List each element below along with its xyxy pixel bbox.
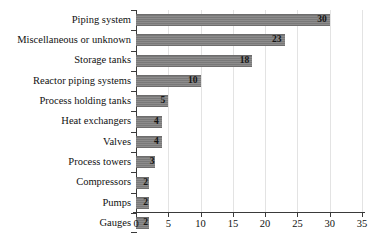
bar-value-label: 2 <box>143 178 148 188</box>
category-label: Heat exchangers <box>61 116 136 127</box>
category-label: Reactor piping systems <box>33 76 136 87</box>
y-tick <box>131 193 137 194</box>
y-tick <box>131 132 137 133</box>
category-label: Storage tanks <box>74 55 136 66</box>
category-label: Valves <box>103 137 136 148</box>
y-tick <box>131 71 137 72</box>
table-row: Compressors 2 <box>0 172 382 192</box>
y-tick <box>131 111 137 112</box>
bar-container: 4 <box>136 136 162 148</box>
table-row: Reactor piping systems 10 <box>0 71 382 91</box>
bar: 2 <box>136 217 149 229</box>
bar: 3 <box>136 156 155 168</box>
table-row: Storage tanks 18 <box>0 51 382 71</box>
bar-container: 2 <box>136 217 149 229</box>
y-tick <box>131 213 137 214</box>
bar: 4 <box>136 136 162 148</box>
bar-rows: Piping system 30 Miscellaneous or unknow… <box>0 10 382 213</box>
bar-container: 3 <box>136 156 155 168</box>
table-row: Process holding tanks 5 <box>0 91 382 111</box>
bar: 18 <box>136 55 252 67</box>
bar-value-label: 4 <box>154 137 159 147</box>
category-label: Compressors <box>76 177 136 188</box>
category-label: Piping system <box>72 15 136 26</box>
table-row: Pumps 2 <box>0 193 382 213</box>
y-tick <box>131 152 137 153</box>
bar: 2 <box>136 177 149 189</box>
bar-value-label: 5 <box>161 97 166 107</box>
bar: 23 <box>136 34 285 46</box>
table-row: Piping system 30 <box>0 10 382 30</box>
bar-container: 2 <box>136 177 149 189</box>
bar: 30 <box>136 14 330 26</box>
category-label: Process holding tanks <box>39 96 136 107</box>
y-tick <box>131 30 137 31</box>
bar-value-label: 3 <box>150 157 155 167</box>
table-row: Gauges 2 <box>0 213 382 233</box>
category-label: Process towers <box>68 157 136 168</box>
category-label: Gauges <box>100 218 137 229</box>
bar-container: 2 <box>136 197 149 209</box>
bar: 2 <box>136 197 149 209</box>
bar-container: 10 <box>136 75 201 87</box>
bar-value-label: 18 <box>240 56 250 66</box>
category-label: Pumps <box>102 198 136 209</box>
y-tick <box>131 51 137 52</box>
bar-container: 30 <box>136 14 330 26</box>
horizontal-bar-chart: Piping system 30 Miscellaneous or unknow… <box>0 0 382 244</box>
y-tick <box>131 91 137 92</box>
table-row: Process towers 3 <box>0 152 382 172</box>
table-row: Valves 4 <box>0 132 382 152</box>
bar-value-label: 2 <box>143 218 148 228</box>
y-tick <box>131 10 137 11</box>
bar-value-label: 10 <box>188 76 198 86</box>
bar-container: 4 <box>136 116 162 128</box>
bar-value-label: 23 <box>272 36 282 46</box>
y-tick <box>131 232 137 233</box>
table-row: Miscellaneous or unknown 23 <box>0 30 382 50</box>
bar-value-label: 4 <box>154 117 159 127</box>
bar-value-label: 30 <box>317 15 327 25</box>
bar-value-label: 2 <box>143 198 148 208</box>
bar: 5 <box>136 95 168 107</box>
y-tick <box>131 172 137 173</box>
bar: 10 <box>136 75 201 87</box>
bar-container: 18 <box>136 55 252 67</box>
category-label: Miscellaneous or unknown <box>17 35 136 46</box>
table-row: Heat exchangers 4 <box>0 111 382 131</box>
bar: 4 <box>136 116 162 128</box>
bar-container: 23 <box>136 34 285 46</box>
bar-container: 5 <box>136 95 168 107</box>
